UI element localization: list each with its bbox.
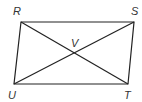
- label-r: R: [13, 5, 21, 17]
- parallelogram-diagram: R S T U V: [0, 0, 142, 102]
- label-s: S: [131, 5, 139, 17]
- label-t: T: [124, 89, 132, 101]
- label-v: V: [71, 37, 80, 49]
- label-u: U: [8, 89, 16, 101]
- diagonal-su: [14, 22, 134, 84]
